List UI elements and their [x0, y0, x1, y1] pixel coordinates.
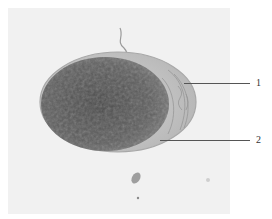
- leader-line-1: [184, 83, 250, 84]
- micrograph-image: [8, 8, 230, 214]
- label-2: 2: [256, 135, 261, 145]
- leader-line-2: [160, 140, 250, 141]
- label-1: 1: [256, 78, 261, 88]
- egg-illustration: [8, 8, 230, 214]
